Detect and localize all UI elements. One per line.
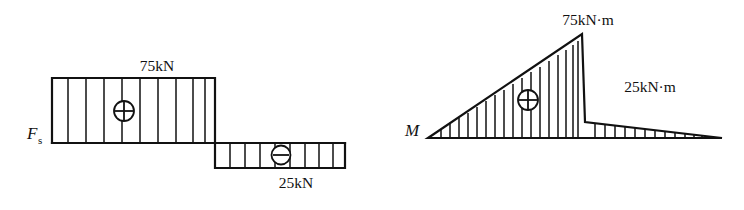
figure-canvas: 75kN 25kN F s: [0, 0, 744, 210]
moment-axis-label: M: [404, 121, 420, 140]
moment-outline: [428, 34, 722, 138]
bending-moment-diagram: 75kN·m 25kN·m M: [404, 11, 722, 140]
moment-left-hatching: [441, 41, 578, 138]
shear-positive-sign-marker: [114, 101, 134, 121]
moment-peak-value-label: 75kN·m: [562, 11, 614, 28]
shear-positive-value-label: 75kN: [140, 57, 174, 74]
shear-negative-value-label: 25kN: [279, 174, 313, 191]
shear-outline: [52, 78, 345, 168]
moment-positive-sign-marker: [518, 90, 538, 110]
shear-axis-label: F s: [26, 124, 42, 146]
shear-axis-label-subscript: s: [38, 134, 42, 146]
shear-positive-hatching: [68, 78, 205, 143]
engineering-diagram-figure: 75kN 25kN F s: [0, 0, 744, 210]
shear-force-diagram: 75kN 25kN F s: [26, 57, 345, 191]
moment-step-value-label: 25kN·m: [624, 78, 676, 95]
shear-negative-sign-marker: [272, 146, 291, 165]
shear-axis-label-main: F: [26, 124, 38, 143]
